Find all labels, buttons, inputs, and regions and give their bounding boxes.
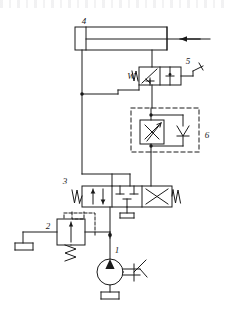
unit6-check-valve xyxy=(177,126,189,146)
pump-flow-triangle xyxy=(105,259,114,269)
relief-flow-arrowhead xyxy=(69,222,73,226)
callout-2: 2 xyxy=(46,221,51,231)
valve3-pos-left xyxy=(91,189,106,204)
callout-6: 6 xyxy=(205,130,210,140)
valve5-block-dot xyxy=(169,73,172,76)
unit-6 xyxy=(131,108,199,186)
valve-3 xyxy=(72,186,181,235)
unit6-node-top xyxy=(149,113,152,116)
reservoir-valve3 xyxy=(120,213,134,218)
reservoir-pump xyxy=(101,292,119,299)
valve5-lever-actuator xyxy=(181,63,203,76)
figure-root: 4 5 6 3 2 1 W xyxy=(0,0,228,310)
valve3-pos-right xyxy=(146,189,168,204)
valve3-pos-center xyxy=(116,186,138,207)
pump-drive xyxy=(123,260,147,281)
valve3-left-actuator xyxy=(72,190,82,203)
callout-5: 5 xyxy=(186,56,191,66)
unit6-node-bot xyxy=(149,144,152,147)
left-rail xyxy=(80,90,130,186)
callout-3: 3 xyxy=(62,176,68,186)
callout-4: 4 xyxy=(82,16,87,26)
valve3-right-actuator xyxy=(172,190,181,203)
reservoir-left xyxy=(15,243,33,250)
relief-valve-2 xyxy=(23,213,112,261)
hydraulic-schematic: 4 5 6 3 2 1 W xyxy=(0,0,228,310)
pump-1 xyxy=(97,235,147,299)
force-arrow-left xyxy=(180,36,200,42)
relief-spring xyxy=(65,245,76,261)
valve-5 xyxy=(118,63,203,108)
callout-1: 1 xyxy=(115,245,120,255)
